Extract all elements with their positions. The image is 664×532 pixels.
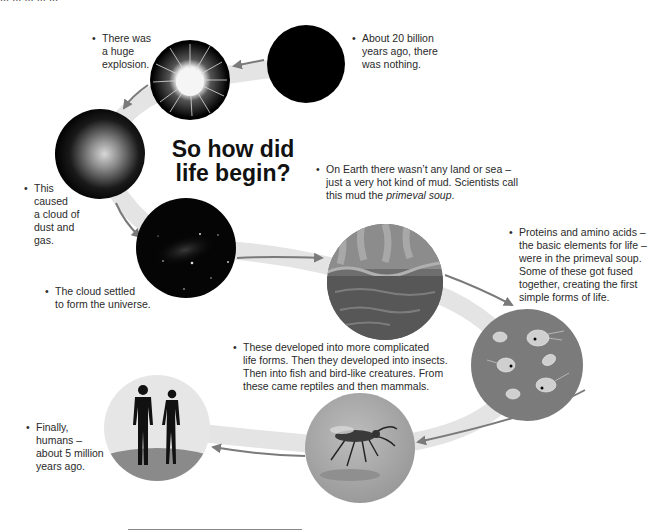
caption-explosion: • There was a huge explosion. bbox=[102, 32, 151, 71]
hot-mud-sea-icon bbox=[325, 224, 447, 341]
caption-universe: • The cloud settled to form the universe… bbox=[55, 285, 151, 311]
caption-nothing: • About 20 billion years ago, there was … bbox=[362, 32, 438, 71]
caption-dust-cloud: • This caused a cloud of dust and gas. bbox=[34, 182, 80, 247]
starfield-galaxy-icon bbox=[136, 198, 236, 298]
caption-simple-life: • Proteins and amino acids – the basic e… bbox=[519, 226, 647, 304]
caption-primeval-soup: • On Earth there wasn’t any land or sea … bbox=[326, 163, 518, 202]
caption-humans: • Finally, humans – about 5 million year… bbox=[36, 421, 104, 473]
insect-icon bbox=[305, 393, 415, 503]
page-title: So how did life begin? bbox=[168, 137, 298, 185]
bottom-divider-line bbox=[128, 529, 302, 530]
top-cutoff-text: ... ... ... ... ... bbox=[0, 0, 58, 3]
nothing-sphere-icon bbox=[267, 25, 345, 103]
microorganisms-icon bbox=[471, 309, 583, 421]
big-bang-explosion-icon bbox=[150, 40, 230, 120]
human-figures-icon bbox=[87, 375, 227, 492]
caption-complex-life: • These developed into more complicated … bbox=[243, 341, 448, 393]
